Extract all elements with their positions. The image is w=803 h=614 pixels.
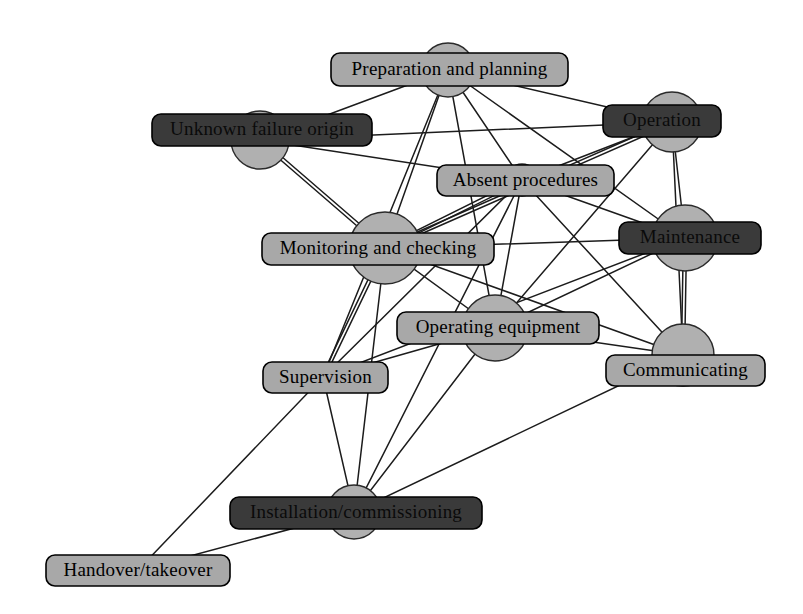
label-text-handover: Handover/takeover [64, 559, 213, 580]
label-text-operating_equipment: Operating equipment [416, 316, 581, 337]
node-label-communicating[interactable]: Communicating [606, 355, 765, 386]
edge-preparation-to-maintenance [448, 70, 685, 238]
node-label-supervision[interactable]: Supervision [263, 362, 388, 393]
network-diagram: Preparation and planningUnknown failure … [0, 0, 803, 614]
network-graph-canvas: Preparation and planningUnknown failure … [0, 0, 803, 614]
node-label-unknown_failure[interactable]: Unknown failure origin [152, 114, 372, 146]
label-text-supervision: Supervision [279, 366, 372, 387]
node-label-monitoring[interactable]: Monitoring and checking [262, 233, 494, 265]
node-label-preparation[interactable]: Preparation and planning [331, 53, 568, 86]
label-text-communicating: Communicating [623, 359, 748, 380]
label-text-monitoring: Monitoring and checking [280, 237, 477, 258]
label-text-unknown_failure: Unknown failure origin [170, 118, 354, 139]
edge-operating_equipment-to-installation [354, 328, 495, 512]
label-text-installation: Installation/commissioning [250, 501, 462, 522]
label-text-maintenance: Maintenance [640, 226, 740, 247]
node-label-installation[interactable]: Installation/commissioning [230, 497, 482, 529]
node-label-handover[interactable]: Handover/takeover [46, 555, 230, 586]
label-text-preparation: Preparation and planning [352, 58, 548, 79]
node-label-operation[interactable]: Operation [603, 105, 721, 137]
node-label-absent_procedures[interactable]: Absent procedures [437, 165, 614, 196]
node-label-operating_equipment[interactable]: Operating equipment [397, 312, 599, 344]
node-label-maintenance[interactable]: Maintenance [619, 222, 761, 254]
label-text-operation: Operation [623, 109, 701, 130]
label-text-absent_procedures: Absent procedures [453, 169, 598, 190]
edge-supervision-to-handover [138, 377, 323, 570]
